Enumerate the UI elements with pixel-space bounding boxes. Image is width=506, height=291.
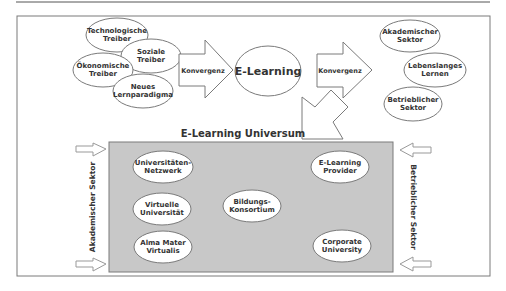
outcome-lebenslanges-lernen: Lebenslanges Lernen (404, 53, 466, 87)
svg-text:E-Learning: E-Learning (319, 159, 361, 167)
svg-text:Treiber: Treiber (137, 56, 165, 64)
svg-text:Lernparadigma: Lernparadigma (113, 91, 173, 99)
svg-text:Soziale: Soziale (137, 48, 165, 56)
svg-text:Akademischer: Akademischer (382, 28, 438, 36)
outcome-betrieblicher-sektor: Betrieblicher Sektor (384, 87, 442, 121)
svg-text:University: University (322, 246, 363, 254)
driver-neues-lernparadigma: Neues Lernparadigma (113, 74, 173, 108)
svg-text:Ökonomische: Ökonomische (77, 61, 130, 70)
svg-text:Virtualis: Virtualis (146, 247, 179, 255)
side-label-betrieblicher-sektor: Betrieblicher Sektor (409, 164, 418, 250)
svg-text:Netzwerk: Netzwerk (144, 167, 182, 175)
node-bildungs-konsortium: Bildungs- Konsortium (223, 190, 281, 222)
svg-text:Bildungs-: Bildungs- (233, 198, 270, 206)
svg-text:Neues: Neues (131, 83, 156, 91)
svg-text:Corporate: Corporate (322, 238, 362, 246)
svg-text:Treiber: Treiber (89, 70, 117, 78)
svg-text:Lebenslanges: Lebenslanges (408, 62, 462, 70)
svg-text:Konvergenz: Konvergenz (181, 67, 225, 75)
universe-title: E-Learning Universum (181, 128, 306, 139)
node-universitaeten-netzwerk: Universitäten- Netzwerk (133, 151, 193, 183)
svg-text:Sektor: Sektor (400, 104, 427, 112)
node-virtuelle-universitaet: Virtuelle Universität (133, 193, 191, 225)
e-learning-node: E-Learning (235, 46, 302, 96)
node-corporate-university: Corporate University (313, 230, 371, 262)
svg-text:E-Learning: E-Learning (235, 65, 302, 78)
svg-text:Universität: Universität (140, 209, 184, 217)
svg-text:Konsortium: Konsortium (229, 206, 275, 214)
node-alma-mater-virtualis: Alma Mater Virtualis (134, 231, 192, 263)
svg-text:Betrieblicher: Betrieblicher (387, 96, 439, 104)
svg-text:Alma Mater: Alma Mater (140, 239, 186, 247)
svg-text:Virtuelle: Virtuelle (145, 201, 179, 209)
svg-text:Sektor: Sektor (397, 36, 424, 44)
e-learning-diagram: Technologische Treiber Soziale Treiber Ö… (0, 0, 506, 291)
node-e-learning-provider: E-Learning Provider (311, 151, 369, 183)
svg-text:Lernen: Lernen (421, 70, 448, 78)
svg-text:Technologische: Technologische (87, 27, 147, 35)
svg-text:Universitäten-: Universitäten- (135, 159, 192, 167)
side-label-akademischer-sektor: Akademischer Sektor (88, 162, 97, 253)
outcome-akademischer-sektor: Akademischer Sektor (380, 20, 440, 52)
svg-text:Provider: Provider (323, 167, 357, 175)
svg-text:Konvergenz: Konvergenz (318, 67, 362, 75)
svg-text:Treiber: Treiber (103, 35, 131, 43)
